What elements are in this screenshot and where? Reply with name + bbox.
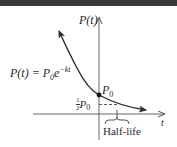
y-axis-label: P(t) bbox=[79, 14, 98, 26]
half-p0-label: 1 2 P0 bbox=[76, 97, 90, 112]
p0-label: P0 bbox=[102, 84, 113, 99]
p0-point bbox=[97, 93, 102, 98]
half-life-label: Half-life bbox=[103, 126, 141, 137]
formula-label: P(t) = P0e−kt bbox=[10, 66, 71, 82]
decay-curve bbox=[59, 31, 77, 68]
half-life-brace bbox=[105, 118, 129, 125]
x-axis-label: t bbox=[161, 118, 164, 128]
